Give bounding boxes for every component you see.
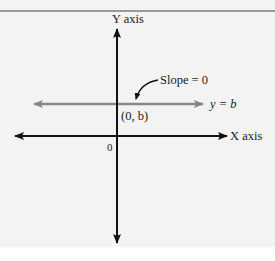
slope-annotation: Slope = 0	[160, 74, 208, 87]
origin-label: 0	[107, 142, 113, 153]
intercept-label: (0, b)	[121, 110, 148, 123]
y-axis-label: Y axis	[112, 13, 144, 26]
x-axis-label: X axis	[230, 130, 262, 143]
line-equation-label: y = b	[210, 98, 236, 111]
slope-annotation-arrow	[136, 80, 158, 99]
